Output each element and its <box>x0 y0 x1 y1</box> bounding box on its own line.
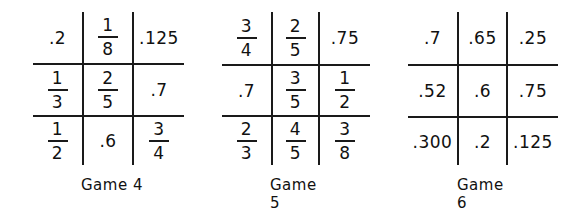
cell-r3-c2[interactable]: .2 <box>459 118 506 165</box>
cell-r1-c1[interactable]: 34 <box>222 12 271 64</box>
fraction: 38 <box>335 121 355 162</box>
cell-r2-c3[interactable]: 12 <box>320 66 370 115</box>
cell-r3-c2[interactable]: 45 <box>273 117 318 165</box>
cell-r3-c1[interactable]: .300 <box>408 118 457 165</box>
cell-r1-c2[interactable]: .65 <box>459 12 506 64</box>
cell-r1-c3[interactable]: .25 <box>508 12 558 64</box>
cell-r2-c1[interactable]: .7 <box>222 66 271 115</box>
game-6: .7 .65 .25 .52 .6 .75 .300 .2 .125 Game … <box>0 0 200 208</box>
game-title: Game 5 <box>270 176 317 208</box>
cell-r2-c3[interactable]: .75 <box>508 66 558 116</box>
cell-r2-c2[interactable]: 35 <box>273 66 318 115</box>
fraction: 25 <box>286 18 306 59</box>
fraction: 34 <box>237 18 257 59</box>
cell-r3-c3[interactable]: 38 <box>320 117 370 165</box>
cell-r2-c1[interactable]: .52 <box>408 66 457 116</box>
cell-r1-c3[interactable]: .75 <box>320 12 370 64</box>
tic-tac-toe-grid: 34 25 .75 .7 35 12 23 45 38 <box>222 12 370 165</box>
cell-r3-c1[interactable]: 23 <box>222 117 271 165</box>
fraction: 23 <box>237 121 257 162</box>
cell-r1-c2[interactable]: 25 <box>273 12 318 64</box>
cell-r1-c1[interactable]: .7 <box>408 12 457 64</box>
fraction: 12 <box>335 70 355 111</box>
fraction: 35 <box>286 70 306 111</box>
tic-tac-toe-grid: .7 .65 .25 .52 .6 .75 .300 .2 .125 <box>408 12 558 165</box>
game-title: Game 6 <box>457 176 504 208</box>
cell-r2-c2[interactable]: .6 <box>459 66 506 116</box>
cell-r3-c3[interactable]: .125 <box>508 118 558 165</box>
fraction: 45 <box>286 121 306 162</box>
